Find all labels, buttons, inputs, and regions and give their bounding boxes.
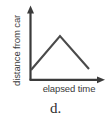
y-axis-arrowhead: [27, 6, 34, 14]
figure-caption: d.: [0, 99, 111, 117]
data-line-series-1: [31, 36, 89, 70]
y-axis-label: distance from car: [10, 0, 24, 86]
x-axis-label: elapsed time: [30, 82, 108, 95]
figure-container: distance from car elapsed time d.: [0, 0, 111, 120]
